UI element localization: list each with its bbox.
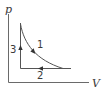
cycle <box>21 23 72 69</box>
y-axis-label: p <box>5 3 12 16</box>
arrow-up-icon <box>18 45 22 50</box>
x-axis-label: V <box>92 77 101 90</box>
process-3-label: 3 <box>10 44 16 55</box>
process-1-label: 1 <box>37 39 43 50</box>
axes: p V <box>5 3 101 90</box>
process-2-label: 2 <box>37 70 43 81</box>
pv-diagram: p V 3 1 2 <box>0 0 103 93</box>
